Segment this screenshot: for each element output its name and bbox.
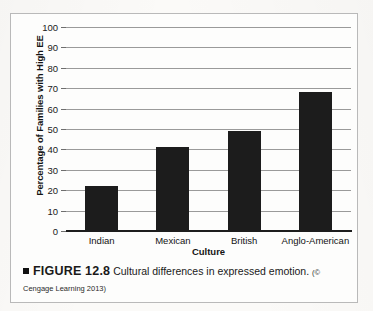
y-axis-tick (61, 149, 66, 150)
figure-caption-text: Cultural differences in expressed emotio… (113, 265, 309, 277)
figure-number-label: FIGURE 12.8 (33, 264, 110, 278)
y-axis-tick (61, 47, 66, 48)
x-axis-tick-label: Mexican (155, 235, 190, 246)
y-axis-tick-label: 90 (47, 42, 58, 53)
y-axis-tick-label: 50 (47, 124, 58, 135)
y-axis-tick (61, 68, 66, 69)
figure-frame: Percentage of Families with High EE 1009… (10, 13, 358, 303)
y-axis-tick (61, 88, 66, 89)
y-axis-tick-label: 100 (42, 22, 58, 33)
bar-british (228, 131, 261, 231)
y-axis-tick-label: 80 (47, 62, 58, 73)
bar-mexican (156, 147, 189, 231)
bar-indian (85, 186, 118, 231)
x-axis-tick-label: British (231, 235, 257, 246)
x-axis-tick-label: Anglo-American (282, 235, 350, 246)
y-axis-tick-label: 10 (47, 205, 58, 216)
gridline (66, 68, 351, 69)
y-axis-tick (61, 27, 66, 28)
y-axis-tick (61, 109, 66, 110)
gridline (66, 27, 351, 28)
y-axis-tick (61, 129, 66, 130)
y-axis-tick (61, 190, 66, 191)
y-axis-tick (61, 211, 66, 212)
x-axis-tick-label: Indian (89, 235, 115, 246)
y-axis-tick-label: 0 (53, 226, 58, 237)
square-bullet-icon (23, 268, 29, 274)
y-axis-title: Percentage of Families with High EE (34, 26, 45, 206)
figure-caption: FIGURE 12.8 Cultural differences in expr… (23, 264, 349, 296)
y-axis-tick-label: 20 (47, 185, 58, 196)
gridline (66, 88, 351, 89)
plot-area: 1009080706050403020100IndianMexicanBriti… (66, 27, 351, 231)
gridline (66, 47, 351, 48)
y-axis-tick-label: 30 (47, 164, 58, 175)
y-axis-tick-label: 40 (47, 144, 58, 155)
y-axis-tick (61, 231, 66, 232)
y-axis-tick-label: 70 (47, 83, 58, 94)
scanned-page-background: Percentage of Families with High EE 1009… (0, 0, 373, 311)
x-axis-title: Culture (66, 246, 351, 257)
bar-anglo-american (299, 92, 332, 231)
y-axis-tick-label: 60 (47, 103, 58, 114)
bar-chart: Percentage of Families with High EE 1009… (11, 14, 359, 262)
y-axis-tick (61, 170, 66, 171)
